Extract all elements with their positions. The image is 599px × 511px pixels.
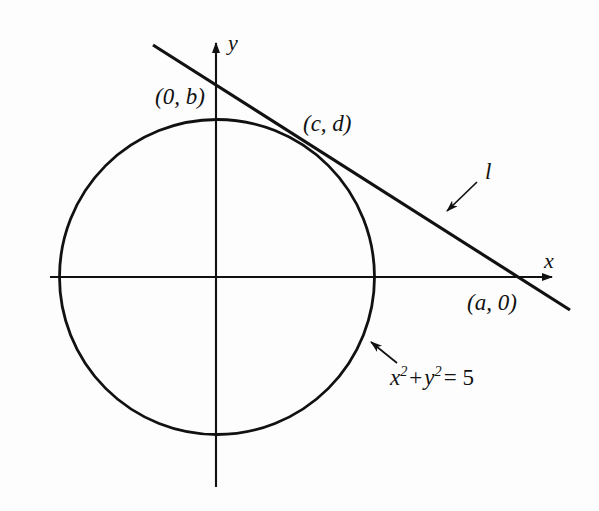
geometry-figure: y x (0, b) (c, d) (a, 0) l x2+y2= 5 <box>0 0 599 511</box>
figure-canvas <box>0 0 599 511</box>
equation-plus: + <box>407 365 424 390</box>
equation-var-y: y <box>424 365 434 390</box>
point-label-tangent-point: (c, d) <box>303 112 352 135</box>
circle-equation-arrow <box>371 342 397 363</box>
y-axis-label: y <box>228 32 238 54</box>
point-label-x-intercept: (a, 0) <box>467 291 517 314</box>
x-axis-label: x <box>544 250 554 272</box>
equation-exponent-y: 2 <box>435 363 442 379</box>
equation-equals: = 5 <box>442 365 476 390</box>
point-label-y-intercept: (0, b) <box>155 85 205 108</box>
equation-var-x: x <box>390 365 400 390</box>
line-label-arrow <box>447 182 477 211</box>
circle-equation-label: x2+y2= 5 <box>390 366 476 389</box>
line-label: l <box>485 160 491 183</box>
